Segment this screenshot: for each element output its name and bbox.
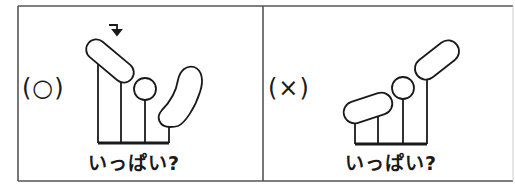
pill-shape-tilted — [82, 35, 138, 86]
pill-shape-high — [411, 36, 464, 84]
correct-figure — [82, 25, 202, 143]
correct-verdict-label: (○) — [22, 74, 65, 102]
incorrect-caption: いっぱい? — [345, 148, 437, 175]
diagram-canvas — [0, 0, 515, 190]
circle-shape — [134, 78, 156, 100]
circle-shape — [392, 77, 414, 99]
pill-shape-low — [341, 90, 395, 126]
rotate-arrow-icon — [109, 25, 121, 35]
incorrect-verdict-label: (×) — [268, 74, 310, 102]
bean-shape — [159, 67, 202, 127]
correct-caption: いっぱい? — [88, 148, 180, 175]
incorrect-figure — [341, 36, 464, 144]
